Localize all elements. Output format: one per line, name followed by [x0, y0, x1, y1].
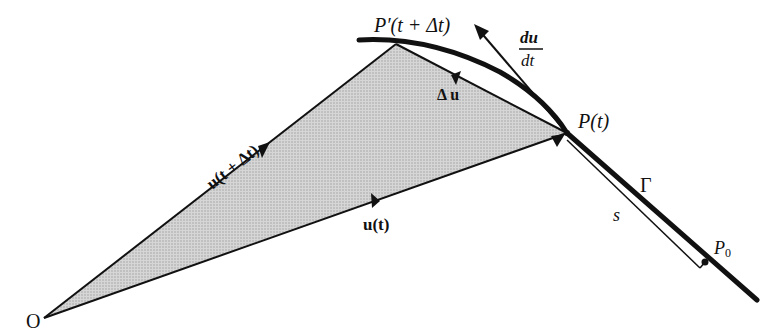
- label-p0-main: P: [713, 238, 725, 258]
- label-p-t: P(t): [577, 110, 609, 133]
- label-gamma: Γ: [640, 174, 652, 196]
- label-delta-u: Δ u: [437, 86, 459, 103]
- arc-length-bracket: [567, 140, 700, 268]
- label-origin: O: [26, 310, 40, 332]
- label-p0: P0: [713, 238, 731, 260]
- label-p0-sub: 0: [725, 246, 731, 260]
- curve-derivative-diagram: O P′(t + Δt) du dt Δ u P(t) u(t + Δt) u(…: [0, 0, 766, 332]
- label-dt-denominator: dt: [521, 51, 536, 70]
- label-s: s: [613, 205, 620, 225]
- arrowhead-at-p-icon: [551, 134, 565, 147]
- label-p-prime: P′(t + Δt): [373, 14, 451, 37]
- point-p0: [702, 259, 709, 266]
- shaded-triangle: [44, 44, 567, 318]
- point-p: [564, 130, 570, 136]
- tangent-arrowhead-icon: [474, 24, 489, 40]
- label-du-numerator: du: [520, 28, 538, 47]
- label-u-t: u(t): [363, 215, 389, 234]
